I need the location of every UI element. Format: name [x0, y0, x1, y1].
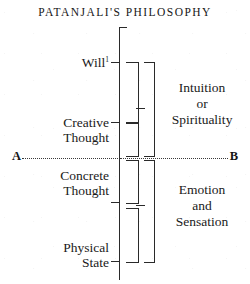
ab-divider-label-b: B [230, 148, 238, 164]
group-label-emotion: Emotion and Sensation [156, 182, 248, 230]
diagram-page: PATANJALI'S PHILOSOPHY Will1 Creative Th… [0, 0, 250, 284]
stage-label-physical-state-line1: Physical [63, 240, 109, 255]
group-label-intuition: Intuition or Spirituality [156, 80, 248, 128]
paper-grain-overlay [0, 0, 250, 284]
group-bracket-intuition-nub [136, 108, 145, 109]
stage-label-concrete-thought: Concrete Thought [60, 168, 109, 198]
tick-will [111, 62, 119, 63]
ab-divider-label-a: A [12, 148, 21, 164]
tick-physical-state [111, 261, 119, 262]
stage-label-will-text: Will [82, 55, 105, 70]
stage-label-concrete-thought-line1: Concrete [60, 168, 109, 183]
stage-label-physical-state-line2: State [63, 255, 109, 270]
group-bracket-emotion [144, 160, 155, 263]
group-bracket-emotion-nub [136, 205, 145, 206]
footnote-marker-will: 1 [105, 55, 109, 64]
bracket-concrete-thought-to-physical-state [126, 208, 139, 263]
bracket-midline-to-concrete-thought [126, 160, 139, 204]
page-title: PATANJALI'S PHILOSOPHY [0, 6, 250, 18]
group-label-intuition-line2: or [156, 96, 248, 112]
ab-divider-dots-right [120, 158, 228, 159]
group-label-emotion-line1: Emotion [156, 182, 248, 198]
group-bracket-intuition [144, 62, 155, 157]
ab-divider-dots-left [22, 158, 118, 159]
tick-creative-thought [111, 122, 119, 123]
stage-label-creative-thought-line1: Creative [63, 115, 109, 130]
group-label-intuition-line1: Intuition [156, 80, 248, 96]
tick-concrete-thought [111, 202, 119, 203]
bracket-will-to-creative-thought [126, 62, 139, 124]
stage-label-physical-state: Physical State [63, 240, 109, 270]
group-label-intuition-line3: Spirituality [156, 112, 248, 128]
axis-top-tick [119, 27, 127, 28]
stage-label-will: Will1 [82, 55, 109, 70]
group-label-emotion-line2: and [156, 198, 248, 214]
group-label-emotion-line3: Sensation [156, 214, 248, 230]
stage-label-creative-thought: Creative Thought [63, 115, 109, 145]
stage-label-concrete-thought-line2: Thought [60, 183, 109, 198]
ab-divider: A B [0, 148, 250, 164]
stage-label-creative-thought-line2: Thought [63, 130, 109, 145]
